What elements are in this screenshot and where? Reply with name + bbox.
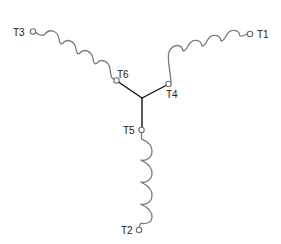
coil-icon: [168, 30, 247, 82]
label-t4: T4: [166, 89, 178, 100]
label-t5: T5: [123, 125, 135, 136]
label-t3: T3: [13, 27, 25, 38]
terminal-t5[interactable]: [139, 127, 144, 132]
terminal-t1[interactable]: [247, 31, 252, 36]
winding-t3-t6: [30, 29, 119, 83]
label-t1: T1: [257, 29, 269, 40]
terminal-t4[interactable]: [166, 81, 171, 86]
wire-t6-to-star: [119, 82, 143, 98]
label-t6: T6: [117, 69, 129, 80]
terminal-t2[interactable]: [136, 227, 141, 232]
winding-t5-t2: [136, 127, 152, 232]
label-t2: T2: [121, 225, 133, 236]
wye-winding-diagram: T3 T1 T6 T4 T5 T2: [0, 0, 281, 244]
terminal-t3[interactable]: [30, 29, 35, 34]
winding-t1-t4: [166, 30, 253, 86]
coil-icon: [139, 133, 152, 227]
wire-t4-to-star: [142, 86, 166, 99]
coil-icon: [36, 31, 114, 80]
star-connection: [119, 82, 167, 127]
